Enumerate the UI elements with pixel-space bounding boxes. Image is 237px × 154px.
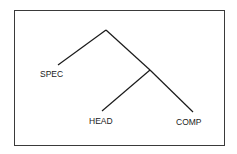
edge-root-spec (58, 30, 106, 65)
node-label-spec: SPEC (40, 70, 63, 79)
node-label-comp: COMP (176, 118, 202, 127)
tree-branches (0, 0, 237, 154)
edge-bar-head (102, 70, 150, 111)
edge-bar-comp (150, 70, 193, 112)
node-label-head: HEAD (89, 117, 113, 126)
edge-root-bar (106, 30, 150, 70)
